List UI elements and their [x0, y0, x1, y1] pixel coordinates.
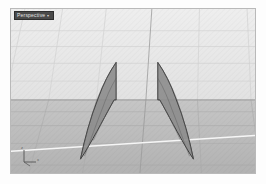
viewport-3d-canvas[interactable]: [11, 9, 255, 173]
world-axis-indicator: x z: [21, 147, 43, 167]
viewport-name-badge[interactable]: Perspective ▾: [14, 11, 54, 20]
viewport-frame[interactable]: Perspective ▾ x z: [10, 8, 256, 174]
axis-label-z: z: [21, 146, 23, 150]
axis-gizmo-icon: [21, 147, 43, 167]
axis-label-x: x: [37, 158, 39, 162]
chevron-down-icon[interactable]: ▾: [47, 12, 49, 19]
viewport-ground-plane: [11, 100, 255, 173]
viewport-sky-plane: [11, 9, 255, 100]
viewport-name-label: Perspective: [17, 12, 45, 19]
application-window: Perspective ▾ x z: [0, 0, 266, 184]
